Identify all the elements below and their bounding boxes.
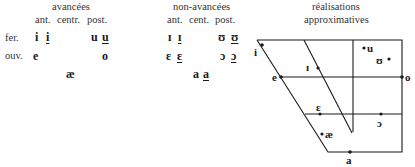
vowel-trapezoid-diagram [0,0,415,167]
diagram-label-i: i [254,46,257,58]
diagram-label-ae: æ [325,128,333,140]
diagram-label-epsilon: ɛ [316,101,321,113]
diagram-label-small-cap-i: ɪ [306,61,309,73]
diagram-label-u: u [367,42,373,54]
diagram-label-o: o [405,71,411,83]
diagram-label-upsilon: ʊ [376,54,383,66]
diagram-label-a: a [346,154,352,166]
diagram-label-open-o: ɔ [377,117,382,129]
diagram-label-e: e [272,71,277,83]
